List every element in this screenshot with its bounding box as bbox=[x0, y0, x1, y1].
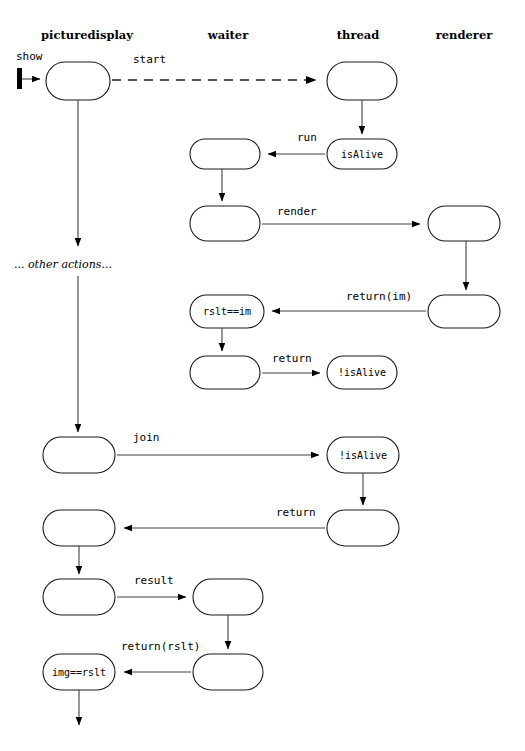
edge-label-render: render bbox=[277, 205, 317, 218]
node-pd2 bbox=[43, 437, 115, 473]
lane-header-thread: thread bbox=[337, 28, 380, 42]
edge-label-return-rslt: return(rslt) bbox=[121, 640, 200, 653]
edge-label-return-1: return bbox=[272, 352, 312, 365]
node-label-not-isalive-2: !isAlive bbox=[339, 450, 387, 461]
edge-label-result: result bbox=[134, 574, 174, 587]
lane-header-waiter: waiter bbox=[207, 28, 249, 42]
edge-label-return-im: return(im) bbox=[346, 290, 412, 303]
node-wt5 bbox=[193, 579, 263, 615]
node-th5 bbox=[327, 510, 399, 546]
node-pd4 bbox=[43, 579, 115, 615]
node-wt2 bbox=[190, 206, 260, 241]
lane-header-picturedisplay: picturedisplay bbox=[41, 28, 133, 42]
node-wt4 bbox=[190, 356, 260, 389]
node-label-rslt-im: rslt==im bbox=[203, 306, 251, 317]
node-label-img-rslt: img==rslt bbox=[52, 667, 106, 678]
note-other-actions: ... other actions... bbox=[14, 258, 112, 271]
node-wt1 bbox=[190, 139, 260, 169]
node-pd1 bbox=[46, 62, 110, 100]
diagram-canvas: picturedisplay waiter thread renderer sh… bbox=[0, 0, 525, 751]
node-label-not-isalive-1: !isAlive bbox=[338, 367, 386, 378]
entry-label-show: show bbox=[16, 50, 43, 63]
node-rn2 bbox=[428, 295, 500, 328]
node-th1 bbox=[327, 62, 397, 100]
lane-header-renderer: renderer bbox=[436, 28, 493, 42]
node-pd3 bbox=[43, 510, 115, 546]
node-wt6 bbox=[193, 654, 263, 690]
node-label-isalive-1: isAlive bbox=[341, 149, 383, 160]
edge-label-return-2: return bbox=[276, 506, 316, 519]
node-rn1 bbox=[428, 206, 500, 241]
edge-label-run: run bbox=[297, 131, 317, 144]
start-bar-icon bbox=[17, 68, 22, 89]
edge-label-join: join bbox=[133, 431, 160, 444]
edge-label-start: start bbox=[133, 53, 166, 66]
sequence-diagram: picturedisplay waiter thread renderer sh… bbox=[0, 0, 525, 751]
